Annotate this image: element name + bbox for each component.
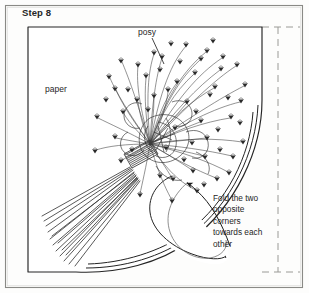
page-title: Step 8 — [22, 7, 51, 18]
figure-canvas: Step 8 paper posy Fold the two opposite … — [0, 0, 309, 293]
fold-instruction-note: Fold the two opposite corners towards ea… — [213, 193, 283, 250]
fold-instruction-line-3: corners — [213, 216, 283, 227]
fold-instruction-line-1: Fold the two — [213, 193, 283, 204]
paper-label: paper — [45, 84, 67, 94]
fold-instruction-line-5: other — [213, 239, 283, 250]
fold-instruction-line-2: opposite — [213, 204, 283, 215]
fold-instruction-line-4: towards each — [213, 227, 283, 238]
posy-label: posy — [138, 27, 156, 37]
